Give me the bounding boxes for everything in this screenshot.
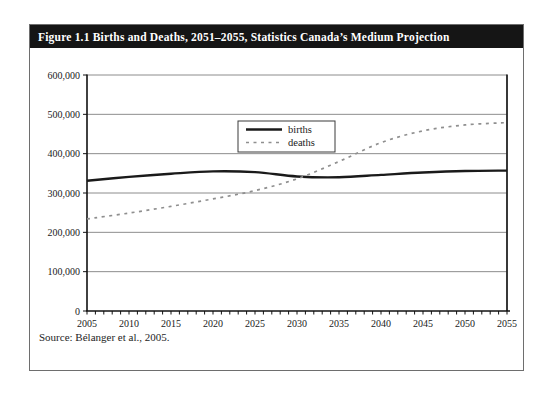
- x-tick-label: 2015: [161, 318, 181, 329]
- y-tick-label: 300,000: [48, 188, 81, 199]
- figure-title-bar: Figure 1.1 Births and Deaths, 2051–2055,…: [30, 25, 523, 48]
- source-note: Source: Bélanger et al., 2005.: [39, 331, 169, 343]
- x-tick-label: 2045: [413, 318, 433, 329]
- y-tick-label: 500,000: [48, 109, 81, 120]
- legend-label-deaths: deaths: [288, 137, 315, 148]
- y-tick-label: 0: [75, 306, 80, 317]
- x-tick-label: 2035: [329, 318, 349, 329]
- series-line-births: [87, 171, 507, 181]
- chart-canvas: 0100,000200,000300,000400,000500,000600,…: [30, 48, 523, 370]
- y-tick-label: 400,000: [48, 148, 81, 159]
- x-tick-label: 2025: [245, 318, 265, 329]
- x-tick-label: 2030: [287, 318, 307, 329]
- figure-box: Figure 1.1 Births and Deaths, 2051–2055,…: [29, 24, 524, 371]
- figure-title: Figure 1.1 Births and Deaths, 2051–2055,…: [38, 31, 450, 43]
- x-tick-label: 2040: [371, 318, 391, 329]
- legend-box: [238, 121, 335, 152]
- legend-label-births: births: [288, 124, 312, 135]
- x-tick-label: 2005: [77, 318, 97, 329]
- figure-content: 0100,000200,000300,000400,000500,000600,…: [30, 48, 523, 370]
- y-tick-label: 200,000: [48, 227, 81, 238]
- y-tick-label: 100,000: [48, 266, 81, 277]
- x-tick-label: 2055: [497, 318, 517, 329]
- y-tick-label: 600,000: [48, 70, 81, 81]
- x-tick-label: 2020: [203, 318, 223, 329]
- x-tick-label: 2050: [455, 318, 475, 329]
- x-tick-label: 2010: [119, 318, 139, 329]
